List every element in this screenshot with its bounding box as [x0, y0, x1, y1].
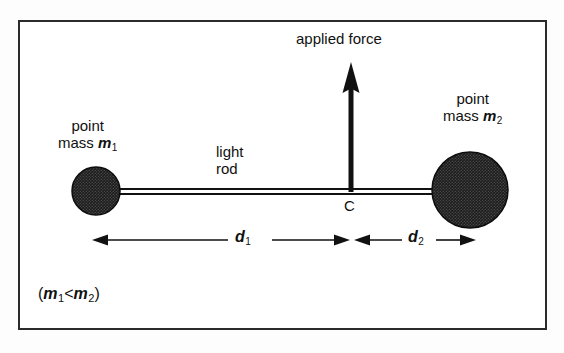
mass-2-subscript: 2	[496, 115, 502, 126]
relation-operator: <	[64, 285, 73, 302]
point-mass-2-label: point mass m2	[443, 90, 502, 126]
relation-m1-subscript: 1	[58, 292, 65, 304]
point-mass-1-line1: point	[58, 117, 117, 134]
d2-subscript: 2	[418, 236, 424, 247]
d2-symbol: d	[408, 228, 418, 245]
point-mass-1-circle	[72, 167, 120, 215]
point-mass-1-line2: mass m1	[58, 134, 117, 153]
relation-m2-symbol: m	[74, 285, 88, 302]
mass-2-symbol: m	[483, 107, 496, 124]
d1-subscript: 1	[245, 236, 251, 247]
mass-relation-note: (m1<m2)	[38, 285, 100, 304]
point-mass-2-line2: mass m2	[443, 107, 502, 126]
distance-d2-label: d2	[408, 228, 424, 247]
figure-root: applied force point mass m1 point mass m…	[0, 0, 564, 353]
relation-m2-subscript: 2	[88, 292, 95, 304]
relation-close-paren: )	[94, 285, 99, 302]
d1-dimension-arrow-icon	[92, 235, 350, 246]
mass-1-symbol: m	[98, 134, 111, 151]
point-mass-2-line1: point	[443, 90, 502, 107]
light-rod-line1: light	[216, 143, 244, 160]
point-mass-1-label: point mass m1	[58, 117, 117, 153]
applied-force-arrow-icon	[343, 62, 360, 192]
light-rod-line2: rod	[216, 160, 244, 177]
light-rod-label: light rod	[216, 143, 244, 177]
centre-point-c-label: C	[344, 197, 355, 214]
light-rod-shape	[96, 189, 470, 194]
d1-symbol: d	[235, 228, 245, 245]
mass-1-subscript: 1	[111, 142, 117, 153]
applied-force-label: applied force	[296, 30, 382, 47]
point-mass-2-circle	[432, 152, 508, 228]
distance-d1-label: d1	[235, 228, 251, 247]
relation-m1-symbol: m	[43, 285, 57, 302]
